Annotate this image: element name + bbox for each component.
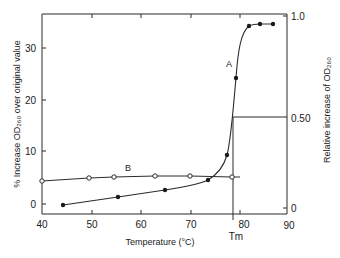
x-tick-70: 70: [185, 219, 197, 230]
right-axis-label: Relative increase of OD₂₆₀: [322, 57, 332, 163]
x-tick-80: 80: [238, 219, 250, 230]
y-tick-0: 0: [30, 199, 36, 210]
top-axis-ticks: [92, 14, 240, 18]
x-tick-labels: 40 50 60 70 80 90: [36, 219, 295, 231]
x-axis-label: Temperature (°C): [125, 237, 194, 247]
series-a: [61, 22, 275, 207]
series-a-point: [163, 188, 167, 192]
series-b-point: [153, 174, 157, 178]
y-tick-labels: 0 10 20 30: [25, 43, 37, 210]
y-tick-20: 20: [25, 95, 37, 106]
series-b-point: [87, 176, 91, 180]
y-axis-label: % Increase OD₂₆₀ over original value: [12, 40, 22, 187]
series-a-point: [116, 195, 120, 199]
series-a-point: [271, 22, 275, 26]
series-a-point: [258, 22, 262, 26]
series-a-point: [61, 203, 65, 207]
series-b-point: [40, 179, 44, 183]
y-tick-10: 10: [25, 146, 37, 157]
plot-frame: [42, 14, 287, 214]
series-a-label: A: [226, 59, 232, 69]
x-tick-40: 40: [36, 219, 48, 230]
series-b-point: [230, 175, 234, 179]
series-b-label: B: [125, 163, 131, 173]
tm-label: Tm: [229, 231, 243, 242]
x-tick-50: 50: [86, 219, 98, 230]
series-b-point: [112, 175, 116, 179]
series-b-point: [188, 174, 192, 178]
series-a-point: [247, 24, 251, 28]
series-a-point: [206, 178, 210, 182]
right-tick-0: 0: [291, 203, 297, 214]
series-a-point: [225, 153, 229, 157]
right-tick-labels: 0 0.50 1.0: [291, 11, 311, 214]
x-tick-90: 90: [283, 220, 295, 231]
melting-curve-chart: 40 50 60 70 80 90 0 10 20 30 0 0.50 1.0 …: [0, 0, 340, 258]
right-axis-ticks: [283, 16, 287, 208]
tm-marker: [233, 117, 287, 220]
y-tick-30: 30: [25, 43, 37, 54]
x-tick-60: 60: [135, 219, 147, 230]
x-axis-ticks: [92, 210, 240, 214]
right-tick-1: 1.0: [291, 11, 305, 22]
series-a-point: [234, 76, 238, 80]
right-tick-050: 0.50: [291, 113, 311, 124]
